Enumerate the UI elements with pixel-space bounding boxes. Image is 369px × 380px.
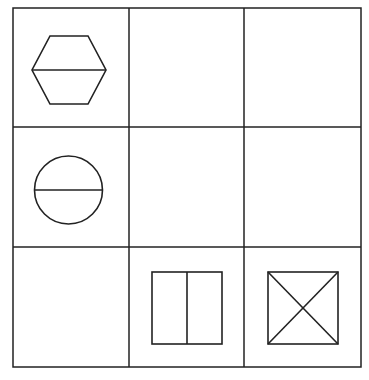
figure-matrix: [0, 0, 369, 380]
cell-r3c3-crossed-square-icon: [268, 272, 338, 344]
cell-r2c1-circle-icon: [35, 156, 103, 224]
cell-r3c2-split-square-icon: [152, 272, 222, 344]
cell-r1c1-hexagon-icon: [32, 36, 106, 104]
